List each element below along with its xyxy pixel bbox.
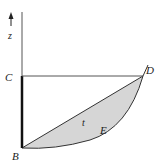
point-label-c: C — [5, 71, 13, 83]
axis-label-z: z — [7, 30, 12, 41]
point-label-e: E — [99, 124, 107, 136]
z-arrowhead-icon — [9, 12, 14, 19]
point-label-d: D — [145, 64, 154, 76]
diagram-canvas: z C D B E t — [0, 0, 167, 167]
region-label-t: t — [82, 117, 85, 128]
point-label-b: B — [12, 150, 19, 162]
